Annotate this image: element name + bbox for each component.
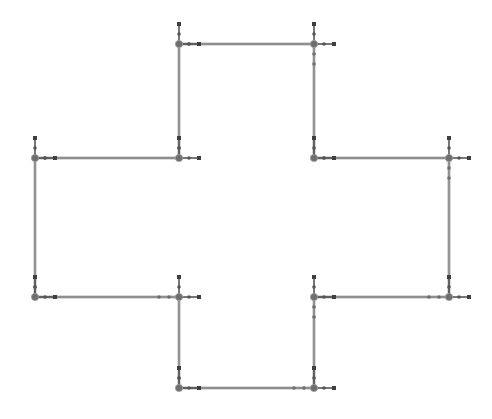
- handle-up-mid-dot: [447, 285, 451, 289]
- edge-control-dot: [302, 386, 306, 390]
- edge-control-dot: [312, 315, 316, 319]
- vertex-node: [445, 293, 452, 300]
- handle-up-mid-dot: [177, 376, 181, 380]
- polygon-edge: [35, 44, 449, 388]
- edge-control-dot: [312, 62, 316, 66]
- vertex-node: [310, 293, 317, 300]
- handle-up-cap: [312, 366, 316, 370]
- handle-up-mid-dot: [177, 146, 181, 150]
- handle-right-mid-dot: [187, 295, 191, 299]
- edge-control-dot: [447, 166, 451, 170]
- handle-up-mid-dot: [312, 32, 316, 36]
- handle-up-cap: [33, 136, 37, 140]
- handle-up-mid-dot: [177, 32, 181, 36]
- handle-right-mid-dot: [43, 156, 47, 160]
- edge-control-dot: [437, 295, 441, 299]
- handle-right-mid-dot: [187, 386, 191, 390]
- edge-control-dot: [447, 176, 451, 180]
- vertex-node: [310, 40, 317, 47]
- vertex-node: [445, 154, 452, 161]
- handle-up-mid-dot: [312, 376, 316, 380]
- handle-right-cap: [332, 386, 336, 390]
- vertex-node: [175, 384, 182, 391]
- handle-right-cap: [467, 295, 471, 299]
- diagram-canvas: [0, 0, 492, 419]
- handle-up-cap: [177, 22, 181, 26]
- handle-right-cap: [332, 295, 336, 299]
- handle-right-mid-dot: [187, 156, 191, 160]
- handle-right-mid-dot: [43, 295, 47, 299]
- handle-right-cap: [467, 156, 471, 160]
- handle-right-cap: [197, 156, 201, 160]
- handle-up-cap: [177, 275, 181, 279]
- edge-control-dot: [312, 305, 316, 309]
- handle-up-cap: [177, 366, 181, 370]
- handle-up-mid-dot: [312, 285, 316, 289]
- handle-up-cap: [312, 136, 316, 140]
- handle-up-mid-dot: [447, 146, 451, 150]
- handle-up-cap: [447, 275, 451, 279]
- handle-up-cap: [312, 22, 316, 26]
- edge-control-dot: [427, 295, 431, 299]
- handle-right-cap: [197, 386, 201, 390]
- handle-right-mid-dot: [457, 295, 461, 299]
- handle-up-cap: [177, 136, 181, 140]
- vertex-layer: [31, 40, 452, 391]
- handle-right-cap: [332, 156, 336, 160]
- handle-right-mid-dot: [187, 42, 191, 46]
- handle-up-mid-dot: [33, 285, 37, 289]
- vertex-node: [31, 293, 38, 300]
- cross-shape-diagram: [0, 0, 492, 419]
- edge-control-dot: [167, 295, 171, 299]
- handle-right-cap: [53, 156, 57, 160]
- handle-layer: [33, 22, 471, 390]
- vertex-node: [31, 154, 38, 161]
- edge-control-dot: [157, 295, 161, 299]
- vertex-node: [175, 154, 182, 161]
- handle-right-cap: [53, 295, 57, 299]
- edge-control-dot: [312, 52, 316, 56]
- handle-right-mid-dot: [457, 156, 461, 160]
- handle-up-mid-dot: [177, 285, 181, 289]
- handle-up-mid-dot: [312, 146, 316, 150]
- vertex-node: [310, 384, 317, 391]
- handle-right-mid-dot: [322, 295, 326, 299]
- handle-right-cap: [197, 42, 201, 46]
- handle-right-mid-dot: [322, 156, 326, 160]
- handle-right-mid-dot: [322, 42, 326, 46]
- edge-halo-layer: [35, 44, 449, 388]
- handle-up-cap: [312, 275, 316, 279]
- polygon-edge-halo: [35, 44, 449, 388]
- handle-up-cap: [33, 275, 37, 279]
- vertex-node: [310, 154, 317, 161]
- handle-up-cap: [447, 136, 451, 140]
- handle-right-cap: [332, 42, 336, 46]
- handle-right-cap: [197, 295, 201, 299]
- vertex-node: [175, 293, 182, 300]
- handle-right-mid-dot: [322, 386, 326, 390]
- edge-layer: [33, 42, 451, 390]
- edge-control-dot: [292, 386, 296, 390]
- handle-up-mid-dot: [33, 146, 37, 150]
- vertex-node: [175, 40, 182, 47]
